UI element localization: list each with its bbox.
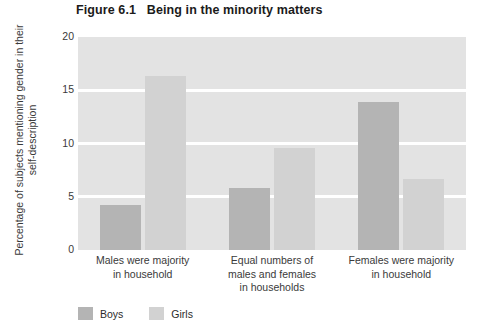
bar-boys-3 <box>358 102 399 250</box>
y-axis-title: Percentage of subjects mentioning gender… <box>13 20 39 260</box>
y-tick-label: 10 <box>48 137 74 149</box>
y-tick-label: 0 <box>48 243 74 255</box>
x-category-label: Females were majorityin household <box>337 254 466 281</box>
x-category-label-line: in households <box>207 281 336 295</box>
x-category-label-line: in household <box>337 268 466 282</box>
y-axis-tick-labels: 05101520 <box>44 0 74 332</box>
bar-girls-2 <box>274 148 315 250</box>
y-tick-label: 5 <box>48 190 74 202</box>
legend-label: Girls <box>171 308 193 320</box>
bar-boys-1 <box>100 205 141 250</box>
y-tick-label: 20 <box>48 30 74 42</box>
bar-girls-1 <box>145 76 186 250</box>
y-tick-label: 15 <box>48 83 74 95</box>
boys-swatch <box>78 307 93 320</box>
legend-label: Boys <box>100 308 123 320</box>
x-category-label: Males were majorityin household <box>78 254 207 281</box>
x-category-label: Equal numbers ofmales and femalesin hous… <box>207 254 336 295</box>
x-axis-category-labels: Males were majorityin householdEqual num… <box>78 254 466 304</box>
legend-item-girls: Girls <box>149 307 193 320</box>
x-category-label-line: males and females <box>207 268 336 282</box>
bar-group-container <box>78 37 466 250</box>
x-category-label-line: Males were majority <box>78 254 207 268</box>
plot-area <box>78 37 466 250</box>
legend: BoysGirls <box>78 307 193 320</box>
x-category-label-line: Females were majority <box>337 254 466 268</box>
x-category-label-line: Equal numbers of <box>207 254 336 268</box>
bar-boys-2 <box>229 188 270 250</box>
bar-girls-3 <box>403 179 444 250</box>
bar-chart: Percentage of subjects mentioning gender… <box>0 0 482 332</box>
girls-swatch <box>149 307 164 320</box>
legend-item-boys: Boys <box>78 307 123 320</box>
x-category-label-line: in household <box>78 268 207 282</box>
